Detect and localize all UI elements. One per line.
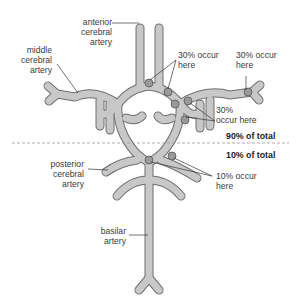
label-line: 30% occur xyxy=(178,50,219,60)
label-occurrence-top-center: 30% occur here xyxy=(178,50,219,70)
label-basilar-artery: basilar artery xyxy=(90,226,126,246)
label-line: 30% xyxy=(216,105,257,115)
label-line: cerebral xyxy=(40,169,84,179)
label-posterior-cerebral-artery: posterior cerebral artery xyxy=(40,159,84,189)
label-occurrence-lower: 10% occur here xyxy=(216,171,257,191)
label-line: anterior xyxy=(74,17,112,27)
label-line: 30% occur xyxy=(236,50,277,60)
label-line: here xyxy=(236,60,277,70)
label-line: artery xyxy=(90,236,126,246)
label-line: basilar xyxy=(90,226,126,236)
label-line: here xyxy=(216,181,257,191)
label-line: posterior xyxy=(40,159,84,169)
label-lower-region-total: 10% of total xyxy=(226,150,275,160)
label-line: here xyxy=(178,60,219,70)
label-line: occur here xyxy=(216,115,257,125)
label-middle-cerebral-artery: middle cerebral artery xyxy=(10,45,52,75)
label-line: artery xyxy=(40,179,84,189)
label-line: middle xyxy=(10,45,52,55)
label-line: 10% occur xyxy=(216,171,257,181)
label-occurrence-middle-right: 30% occur here xyxy=(216,105,257,125)
label-line: artery xyxy=(74,37,112,47)
label-occurrence-top-right: 30% occur here xyxy=(236,50,277,70)
label-line: artery xyxy=(10,65,52,75)
label-line: cerebral xyxy=(10,55,52,65)
label-anterior-cerebral-artery: anterior cerebral artery xyxy=(74,17,112,47)
label-upper-region-total: 90% of total xyxy=(226,131,275,141)
label-line: cerebral xyxy=(74,27,112,37)
